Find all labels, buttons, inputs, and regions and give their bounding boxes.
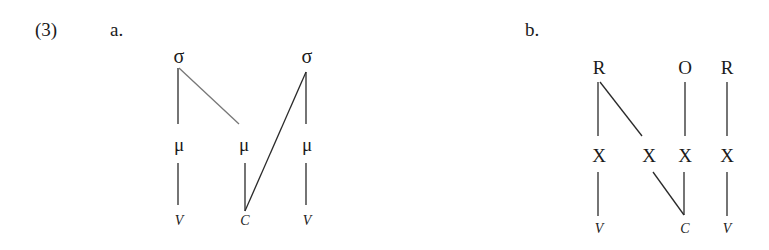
line-sigma1-mu2 [179,68,239,124]
x-slot-3: X [678,146,692,165]
association-lines [0,0,769,250]
segment-c: C [240,214,249,228]
segment-v1: V [175,214,184,228]
line-x2-c [653,172,684,215]
mora-node-2: μ [239,135,249,154]
x-slot-4: X [720,146,734,165]
mora-node-3: μ [302,135,312,154]
syllable-node-2: σ [302,46,313,66]
line-sigma2-c [245,72,306,211]
segment-v2: V [303,214,312,228]
segment-v2-b: V [723,222,732,236]
rhyme-node-2: R [721,58,734,77]
segment-c-b: C [680,222,689,236]
rhyme-node-1: R [593,58,606,77]
x-slot-2: X [642,146,656,165]
line-r1-x2 [600,82,642,136]
mora-node-1: μ [174,135,184,154]
onset-node: O [678,58,692,77]
syllable-node-1: σ [174,46,185,66]
x-slot-1: X [592,146,606,165]
segment-v1-b: V [595,222,604,236]
